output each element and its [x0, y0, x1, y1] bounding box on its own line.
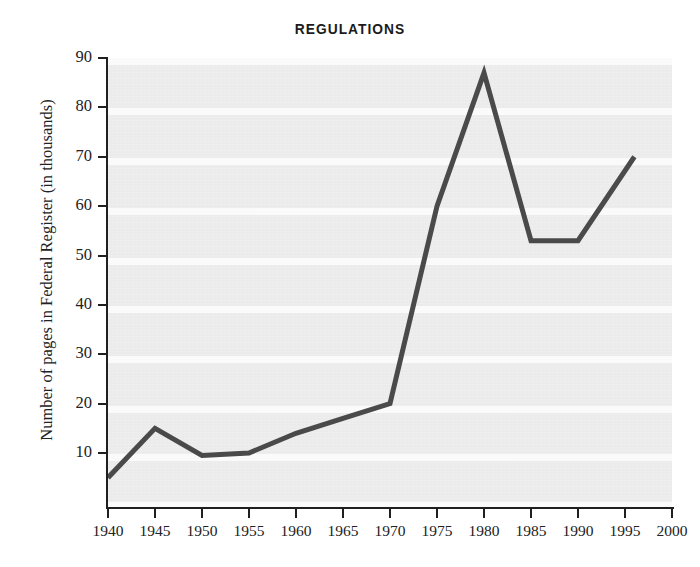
- y-tick-label: 70: [52, 146, 92, 166]
- x-tick-label: 1975: [414, 522, 460, 540]
- x-tick-label: 1965: [320, 522, 366, 540]
- x-tick-label: 1945: [132, 522, 178, 540]
- x-tick-label: 1980: [461, 522, 507, 540]
- x-tick-mark: [389, 509, 391, 518]
- y-tick-mark: [98, 57, 107, 59]
- chart-figure: REGULATIONS Number of pages in Federal R…: [0, 0, 700, 567]
- x-tick-mark: [107, 509, 109, 518]
- y-tick-label: 20: [52, 393, 92, 413]
- x-tick-mark: [624, 509, 626, 518]
- x-tick-label: 1995: [602, 522, 648, 540]
- series-line-group: [108, 58, 672, 508]
- x-tick-mark: [483, 509, 485, 518]
- x-tick-mark: [577, 509, 579, 518]
- y-tick-mark: [98, 353, 107, 355]
- y-tick-label: 50: [52, 245, 92, 265]
- x-tick-label: 1970: [367, 522, 413, 540]
- series-line-pages: [108, 73, 634, 478]
- x-tick-label: 1940: [85, 522, 131, 540]
- x-tick-label: 2000: [649, 522, 695, 540]
- y-tick-mark: [98, 403, 107, 405]
- y-tick-label: 10: [52, 442, 92, 462]
- x-tick-mark: [342, 509, 344, 518]
- x-tick-mark: [295, 509, 297, 518]
- plot-area: [108, 58, 672, 508]
- y-tick-label: 40: [52, 294, 92, 314]
- y-tick-label: 30: [52, 343, 92, 363]
- x-tick-mark: [530, 509, 532, 518]
- x-tick-label: 1985: [508, 522, 554, 540]
- x-tick-label: 1990: [555, 522, 601, 540]
- x-tick-label: 1950: [179, 522, 225, 540]
- x-tick-label: 1960: [273, 522, 319, 540]
- x-tick-mark: [248, 509, 250, 518]
- y-tick-mark: [98, 452, 107, 454]
- y-tick-mark: [98, 205, 107, 207]
- y-tick-mark: [98, 156, 107, 158]
- x-tick-mark: [671, 509, 673, 518]
- y-tick-label: 60: [52, 195, 92, 215]
- x-tick-mark: [154, 509, 156, 518]
- y-tick-label: 80: [52, 96, 92, 116]
- y-tick-label: 90: [52, 47, 92, 67]
- y-axis-title-wrapper: Number of pages in Federal Register (in …: [0, 0, 40, 567]
- x-tick-mark: [201, 509, 203, 518]
- chart-title: REGULATIONS: [28, 20, 672, 37]
- y-tick-mark: [98, 255, 107, 257]
- x-tick-label: 1955: [226, 522, 272, 540]
- y-tick-mark: [98, 304, 107, 306]
- y-tick-mark: [98, 106, 107, 108]
- x-tick-mark: [436, 509, 438, 518]
- y-axis-line: [106, 57, 108, 509]
